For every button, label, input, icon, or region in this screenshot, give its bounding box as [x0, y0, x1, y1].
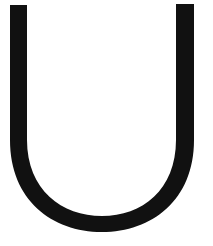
- letter-u-shape: [10, 4, 194, 232]
- glyph-canvas: U: [0, 0, 213, 246]
- letter-u-glyph: [0, 0, 213, 246]
